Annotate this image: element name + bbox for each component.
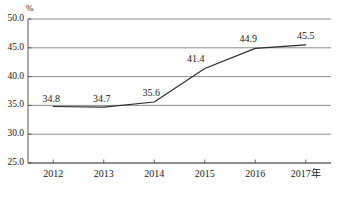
gridlines bbox=[28, 19, 331, 163]
y-axis-tick-label: 40.0 bbox=[0, 72, 24, 82]
x-axis-tick-label: 2015 bbox=[178, 169, 232, 179]
y-axis-tick-label: 25.0 bbox=[0, 158, 24, 168]
x-axis-tick-label: 2016 bbox=[228, 169, 282, 179]
data-point-label: 35.6 bbox=[134, 88, 168, 98]
x-axis-tick-label: 2012 bbox=[26, 169, 80, 179]
x-axis-tick-label: 2017年 bbox=[279, 169, 333, 179]
line-chart: % 25.030.035.040.045.050.0 2012201320142… bbox=[0, 0, 343, 199]
y-axis-tick-label: 30.0 bbox=[0, 129, 24, 139]
axis-lines bbox=[28, 19, 331, 163]
y-axis-tick-label: 45.0 bbox=[0, 43, 24, 53]
data-point-label: 44.9 bbox=[231, 34, 265, 44]
data-point-label: 41.4 bbox=[179, 54, 213, 64]
x-axis-tick-label: 2013 bbox=[77, 169, 131, 179]
data-point-label: 34.7 bbox=[85, 94, 119, 104]
x-axis-ticks bbox=[53, 160, 306, 164]
data-point-label: 45.5 bbox=[289, 31, 323, 41]
y-axis-tick-label: 35.0 bbox=[0, 100, 24, 110]
x-axis-tick-label: 2014 bbox=[127, 169, 181, 179]
y-axis-tick-label: 50.0 bbox=[0, 14, 24, 24]
data-point-label: 34.8 bbox=[34, 94, 68, 104]
y-axis-ticks bbox=[28, 19, 32, 163]
